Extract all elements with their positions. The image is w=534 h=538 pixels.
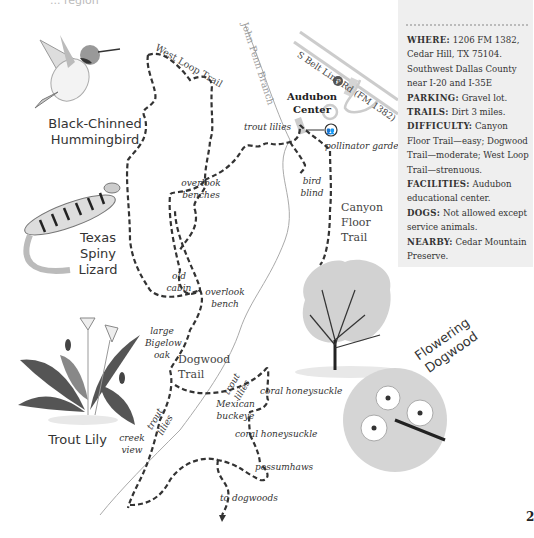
- poi-large-bigelow-oak: large Bigelow oak: [145, 325, 179, 361]
- caption-lizard: Texas Spiny Lizard: [78, 230, 118, 278]
- audubon-center-label: Audubon Center: [286, 90, 338, 116]
- poi-coral-honeysuckle-1: coral honeysuckle: [260, 385, 342, 397]
- info-trails: TRAILS: Dirt 3 miles.: [407, 105, 531, 119]
- caption-trout-lily: Trout Lily: [40, 432, 115, 448]
- poi-to-dogwoods: to dogwoods: [220, 492, 278, 504]
- info-content: WHERE: 1206 FM 1382, Cedar Hill, TX 7510…: [407, 33, 531, 264]
- info-dogs: DOGS: Not allowed except service animals…: [407, 206, 531, 235]
- poi-old-cabin: old cabin: [165, 270, 193, 294]
- poi-overlook-benches: overlook benches: [180, 177, 222, 201]
- poi-trout-lilies-1: trout lilies: [244, 121, 291, 133]
- poi-mexican-buckeye: Mexican buckeye: [213, 398, 258, 422]
- dotted-divider: [406, 24, 528, 26]
- dogwood-trail-label: Dogwood Trail: [178, 352, 218, 382]
- info-parking: PARKING: Gravel lot.: [407, 91, 531, 105]
- dogwood-blossom-illustration: [343, 368, 447, 472]
- info-nearby: NEARBY: Cedar Mountain Preserve.: [407, 235, 531, 264]
- info-where: WHERE: 1206 FM 1382, Cedar Hill, TX 7510…: [407, 33, 531, 91]
- trout-lily-illustration: [18, 318, 140, 425]
- poi-creek-view: creek view: [118, 432, 146, 456]
- caption-hummingbird: Black-Chinned Hummingbird: [45, 116, 145, 148]
- poi-possumhaws: possumhaws: [255, 461, 313, 473]
- poi-pollinator-garden: pollinator garden: [325, 140, 405, 152]
- info-facilities: FACILITIES: Audubon educational center.: [407, 177, 531, 206]
- poi-bird-blind: bird blind: [298, 175, 326, 199]
- page-number: 2: [526, 510, 534, 524]
- hummingbird-illustration: [35, 35, 120, 108]
- dogwood-tree-illustration: [295, 260, 405, 378]
- canyon-floor-trail-label: Canyon Floor Trail: [341, 200, 381, 245]
- poi-overlook-bench: overlook bench: [205, 286, 245, 310]
- poi-coral-honeysuckle-2: coral honeysuckle: [235, 428, 317, 440]
- svg-text:👥: 👥: [326, 127, 335, 135]
- arrow-to-dogwoods-icon: [219, 515, 226, 522]
- info-difficulty: DIFFICULTY: Canyon Floor Trail—easy; Dog…: [407, 119, 531, 177]
- info-box: WHERE: 1206 FM 1382, Cedar Hill, TX 7510…: [398, 0, 533, 267]
